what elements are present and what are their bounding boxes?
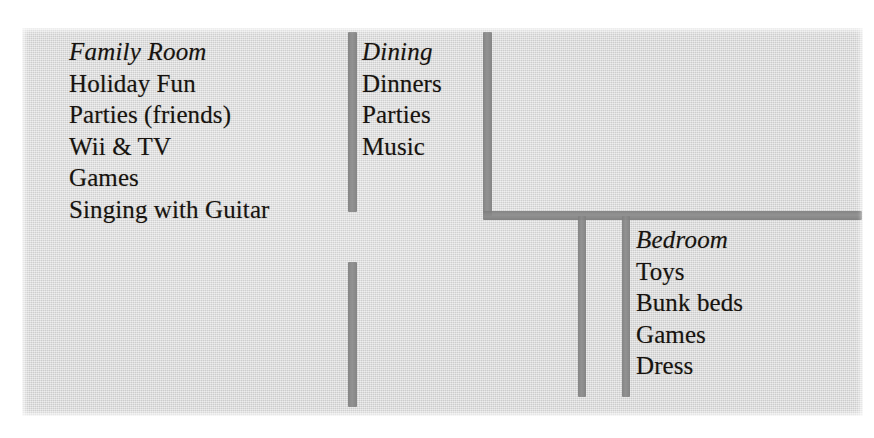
room-item-bedroom-3: Dress bbox=[636, 350, 743, 382]
room-item-dining-2: Music bbox=[362, 131, 442, 163]
room-item-bedroom-2: Games bbox=[636, 319, 743, 351]
room-item-dining-1: Parties bbox=[362, 99, 442, 131]
floorplan-canvas: Family Room Holiday Fun Parties (friends… bbox=[22, 28, 863, 416]
room-item-bedroom-0: Toys bbox=[636, 256, 743, 288]
room-item-dining-0: Dinners bbox=[362, 68, 442, 100]
room-title-bedroom: Bedroom bbox=[636, 224, 743, 256]
wall-bedroom-left bbox=[622, 216, 630, 397]
room-label-bedroom: Bedroom Toys Bunk beds Games Dress bbox=[636, 224, 743, 382]
room-item-family-room-3: Games bbox=[69, 162, 270, 194]
room-item-family-room-0: Holiday Fun bbox=[69, 68, 270, 100]
wall-divider-left-upper bbox=[348, 32, 357, 212]
room-item-family-room-2: Wii & TV bbox=[69, 131, 270, 163]
wall-divider-left-lower bbox=[348, 262, 357, 407]
wall-dining-right bbox=[483, 32, 492, 216]
room-title-family-room: Family Room bbox=[69, 36, 270, 68]
room-item-family-room-1: Parties (friends) bbox=[69, 99, 270, 131]
scanned-page: Family Room Holiday Fun Parties (friends… bbox=[0, 0, 874, 438]
room-title-dining: Dining bbox=[362, 36, 442, 68]
wall-lower-stub-left bbox=[578, 216, 586, 397]
room-item-family-room-4: Singing with Guitar bbox=[69, 194, 270, 226]
room-label-family-room: Family Room Holiday Fun Parties (friends… bbox=[69, 36, 270, 225]
room-item-bedroom-1: Bunk beds bbox=[636, 287, 743, 319]
wall-horizontal-main bbox=[483, 211, 862, 220]
room-label-dining: Dining Dinners Parties Music bbox=[362, 36, 442, 162]
